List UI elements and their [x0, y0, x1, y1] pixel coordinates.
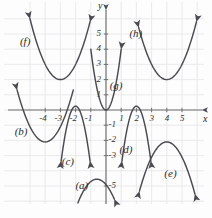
- x-tick-label-1: 1: [119, 114, 124, 123]
- x-tick-label--4: -4: [39, 114, 47, 123]
- y-tick-label-neg3: -3: [109, 151, 117, 160]
- x-tick-label--3: -3: [54, 114, 62, 123]
- curve-label-f: (f): [20, 36, 30, 47]
- x-axis-label: x: [203, 114, 207, 124]
- parabola-h: [139, 22, 197, 80]
- y-axis-label: y: [98, 1, 102, 11]
- x-tick-label--1: -1: [85, 114, 93, 123]
- y-tick-label-neg5: -5: [109, 181, 117, 190]
- y-tick-label-4: 4: [97, 44, 102, 53]
- parabola-figure: -4-3-2-11234554321-1-2-3-5xy(a)(b)(c)(d)…: [0, 0, 212, 218]
- y-tick-label-neg2: -2: [109, 135, 117, 144]
- y-tick-label-2: 2: [97, 75, 102, 84]
- y-tick-label-neg1: -1: [109, 120, 117, 129]
- y-tick-label-5: 5: [97, 29, 102, 38]
- curve-label-c: (c): [62, 156, 74, 167]
- curve-label-e: (e): [164, 168, 176, 179]
- plot-canvas: [0, 0, 212, 218]
- curve-label-g: (g): [110, 80, 123, 91]
- curve-label-b: (b): [15, 126, 28, 137]
- y-tick-label-1: 1: [97, 90, 102, 99]
- curve-label-a: (a): [75, 180, 88, 191]
- x-tick-label-3: 3: [150, 114, 155, 123]
- curve-label-d: (d): [120, 144, 133, 155]
- x-tick-label-5: 5: [180, 114, 185, 123]
- x-tick-label-2: 2: [134, 114, 139, 123]
- curve-label-h: (h): [129, 28, 142, 39]
- x-tick-label--2: -2: [70, 114, 78, 123]
- x-tick-label-4: 4: [165, 114, 170, 123]
- y-tick-label-3: 3: [97, 59, 102, 68]
